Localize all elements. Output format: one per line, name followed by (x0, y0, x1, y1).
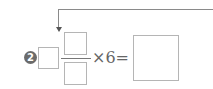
arrow-down-icon (56, 27, 62, 32)
arrow-horizontal-line (58, 9, 213, 10)
arrow-vertical-line (58, 9, 59, 29)
denominator-blank[interactable] (64, 62, 87, 85)
answer-blank[interactable] (133, 35, 179, 81)
problem-number-badge: 2 (24, 51, 37, 64)
fraction-bar (61, 58, 91, 59)
multiply-expression: ×6= (92, 47, 129, 69)
whole-number-blank[interactable] (38, 47, 59, 69)
numerator-blank[interactable] (64, 32, 87, 55)
